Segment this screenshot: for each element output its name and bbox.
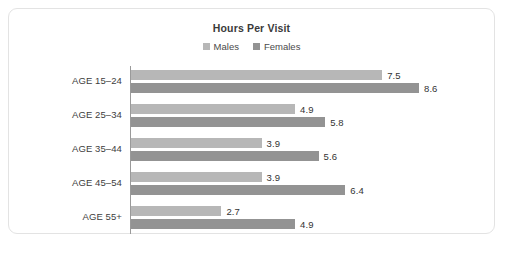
bar-females[interactable]: [131, 185, 345, 195]
category-label: AGE 45–54: [9, 176, 122, 190]
bar-value-label: 5.8: [330, 117, 344, 128]
bar-group: AGE 55+2.74.9: [9, 202, 494, 233]
bar-females[interactable]: [131, 151, 319, 161]
bar-value-label: 4.9: [300, 219, 314, 230]
category-label: AGE 35–44: [9, 142, 122, 156]
bar-value-label: 3.9: [267, 172, 281, 183]
plot-area: AGE 15–247.58.6AGE 25–344.95.8AGE 35–443…: [9, 57, 494, 233]
bar-value-label: 6.4: [350, 185, 364, 196]
bar-males[interactable]: [131, 138, 262, 148]
legend-item-males[interactable]: Males: [203, 41, 239, 52]
bar-value-label: 4.9: [300, 104, 314, 115]
bar-value-label: 8.6: [424, 83, 438, 94]
bar-value-label: 7.5: [387, 70, 401, 81]
bar-males[interactable]: [131, 172, 262, 182]
chart-title: Hours Per Visit: [9, 22, 494, 34]
bar-row-males: 3.9: [131, 138, 280, 148]
bar-row-males: 7.5: [131, 70, 401, 80]
bar-row-males: 2.7: [131, 206, 240, 216]
bar-row-males: 3.9: [131, 172, 280, 182]
bar-row-females: 6.4: [131, 185, 364, 195]
bar-row-females: 5.8: [131, 117, 344, 127]
bar-value-label: 3.9: [267, 138, 281, 149]
bar-group: AGE 45–543.96.4: [9, 168, 494, 199]
legend-swatch-females-icon: [253, 43, 260, 50]
bar-row-females: 8.6: [131, 83, 438, 93]
category-label: AGE 15–24: [9, 74, 122, 88]
bar-males[interactable]: [131, 104, 295, 114]
legend-label-females: Females: [264, 41, 300, 52]
bar-females[interactable]: [131, 83, 419, 93]
bar-group: AGE 25–344.95.8: [9, 100, 494, 131]
bar-row-females: 4.9: [131, 219, 314, 229]
bar-males[interactable]: [131, 206, 221, 216]
bar-row-females: 5.6: [131, 151, 337, 161]
category-label: AGE 25–34: [9, 108, 122, 122]
chart-card: Hours Per Visit Males Females AGE 15–247…: [8, 8, 495, 234]
bar-row-males: 4.9: [131, 104, 314, 114]
chart-legend: Males Females: [9, 41, 494, 52]
legend-label-males: Males: [214, 41, 239, 52]
bar-value-label: 2.7: [226, 206, 240, 217]
bar-group: AGE 15–247.58.6: [9, 66, 494, 97]
bar-males[interactable]: [131, 70, 382, 80]
screenshot-root: Hours Per Visit Males Females AGE 15–247…: [0, 0, 509, 258]
bar-group: AGE 35–443.95.6: [9, 134, 494, 165]
bar-females[interactable]: [131, 117, 325, 127]
legend-swatch-males-icon: [203, 43, 210, 50]
category-label: AGE 55+: [9, 210, 122, 224]
bar-value-label: 5.6: [324, 151, 338, 162]
bar-group-list: AGE 15–247.58.6AGE 25–344.95.8AGE 35–443…: [9, 66, 494, 233]
legend-item-females[interactable]: Females: [253, 41, 300, 52]
bar-females[interactable]: [131, 219, 295, 229]
